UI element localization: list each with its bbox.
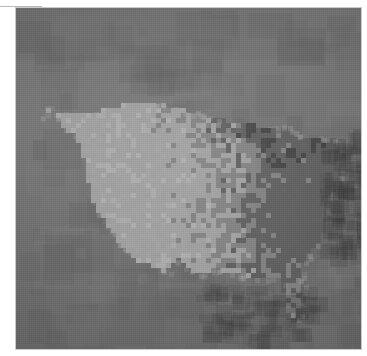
us-choropleth-map-plate [16, 8, 361, 349]
scan-rule-artifact [0, 6, 42, 7]
us-map-raster [16, 8, 361, 349]
page-root [0, 0, 367, 356]
